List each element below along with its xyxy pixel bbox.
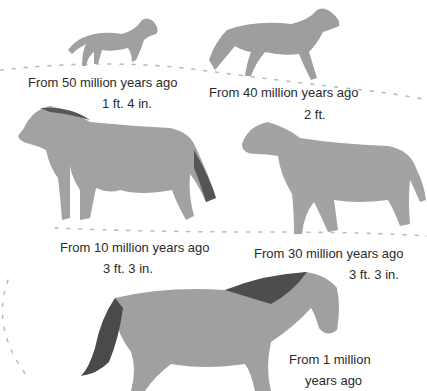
stage-1mya-label-line2: years ago (305, 373, 362, 388)
stage-50mya-label: From 50 million years ago (28, 75, 178, 90)
horse-10mya-illustration (10, 98, 220, 228)
horse-30mya-illustration (238, 114, 427, 244)
stage-30mya-height: 3 ft. 3 in. (349, 267, 399, 282)
horse-40mya-illustration (205, 4, 345, 84)
stage-40mya-height: 2 ft. (304, 107, 326, 122)
stage-1mya-label-line1: From 1 million (289, 352, 371, 367)
stage-40mya-label: From 40 million years ago (209, 85, 359, 100)
stage-30mya-label: From 30 million years ago (254, 246, 404, 261)
stage-10mya-height: 3 ft. 3 in. (103, 261, 153, 276)
horse-evolution-diagram: From 50 million years ago 1 ft. 4 in. Fr… (0, 0, 427, 391)
stage-10mya-label: From 10 million years ago (60, 240, 210, 255)
horse-50mya-illustration (62, 12, 162, 68)
stage-50mya-height: 1 ft. 4 in. (102, 96, 152, 111)
